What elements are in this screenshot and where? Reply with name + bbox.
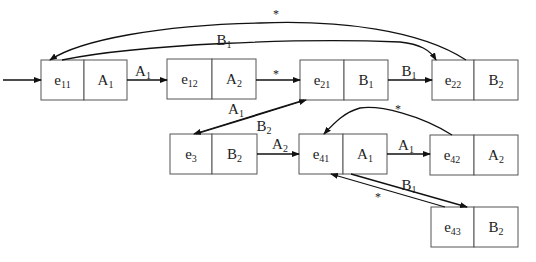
- edge-label: B2: [256, 118, 271, 136]
- edge-label: A1: [135, 63, 151, 81]
- arrow: [196, 100, 306, 134]
- edge-label: A1: [228, 101, 244, 119]
- edge-e21-to-e22: B1: [388, 63, 432, 81]
- node-e43: e43B2: [431, 207, 518, 247]
- edge-label: *: [273, 7, 279, 21]
- node-e42: e42A2: [430, 135, 518, 175]
- arrow: [324, 107, 452, 135]
- edge-e42-to-e41: *: [324, 102, 452, 135]
- arrow: [331, 174, 445, 207]
- node-e22: e22B2: [432, 60, 518, 100]
- edge-label: B1: [216, 32, 231, 50]
- node-e41: e41A1: [299, 134, 387, 174]
- edge-label: A1: [398, 137, 414, 155]
- edge-label: A2: [272, 136, 288, 154]
- node-e11: e11A1: [41, 60, 127, 100]
- node-e21: e21B1: [300, 60, 388, 100]
- arrow: [62, 41, 436, 60]
- edge-label: *: [395, 102, 401, 116]
- edge-e43-to-e41: *: [331, 174, 445, 207]
- edge-e41-to-e42: A1: [387, 137, 430, 155]
- node-e3: e3B2: [170, 134, 257, 174]
- edge-label: *: [375, 190, 381, 204]
- edge-e12-to-e21: *: [256, 67, 300, 81]
- edge-e11-to-e12: A1: [127, 63, 167, 81]
- arrow: [50, 22, 466, 60]
- node-e12: e12A2: [167, 59, 256, 99]
- edge-e3-to-e41: A2: [257, 136, 299, 154]
- state-diagram: e11A1e12A2e21B1e22B2e3B2e41A1e42A2e43B2 …: [0, 0, 536, 262]
- edge-label: B1: [401, 177, 416, 195]
- edge-label: B1: [401, 63, 416, 81]
- edge-label: *: [273, 67, 279, 81]
- edge-e3-to-e21: B2: [196, 100, 306, 136]
- edge-e41-to-e43: B1: [351, 174, 467, 207]
